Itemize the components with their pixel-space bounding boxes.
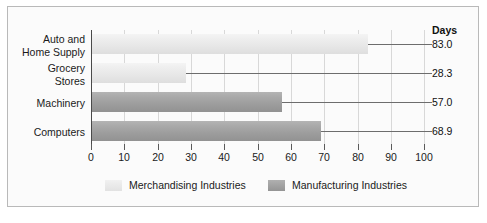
days-column-header: Days bbox=[432, 24, 457, 37]
chart-screenshot: Auto and Home Supply Grocery Stores Mach… bbox=[0, 0, 487, 223]
category-label-auto-and-home-supply: Auto and Home Supply bbox=[22, 33, 85, 58]
xtick-0 bbox=[91, 144, 92, 150]
value-label-grocery-stores: 28.3 bbox=[432, 67, 472, 80]
bar-grocery-stores bbox=[92, 63, 186, 83]
legend-label-merchandising: Merchandising Industries bbox=[129, 179, 246, 192]
legend-swatch-manufacturing-icon bbox=[268, 180, 285, 191]
xtick-70 bbox=[324, 144, 325, 150]
value-label-auto-and-home-supply: 83.0 bbox=[432, 38, 472, 51]
legend-swatch-merchandising-icon bbox=[105, 180, 122, 191]
xtick-label-100: 100 bbox=[404, 151, 444, 164]
category-label-computers: Computers bbox=[34, 126, 85, 139]
leader-line-machinery bbox=[282, 102, 432, 103]
chart-legend: Merchandising Industries Manufacturing I… bbox=[0, 179, 487, 197]
xtick-80 bbox=[358, 144, 359, 150]
xtick-90 bbox=[391, 144, 392, 150]
category-label-machinery: Machinery bbox=[37, 97, 85, 110]
category-label-grocery-stores: Grocery Stores bbox=[48, 62, 85, 87]
bar-computers bbox=[92, 121, 321, 141]
value-label-computers: 68.9 bbox=[432, 125, 472, 138]
bar-auto-and-home-supply bbox=[92, 34, 368, 54]
xtick-100 bbox=[424, 144, 425, 150]
leader-line-computers bbox=[321, 131, 432, 132]
legend-item-merchandising: Merchandising Industries bbox=[105, 179, 246, 192]
plot-area: Auto and Home Supply Grocery Stores Mach… bbox=[0, 0, 487, 223]
legend-item-manufacturing: Manufacturing Industries bbox=[268, 179, 407, 192]
value-label-machinery: 57.0 bbox=[432, 96, 472, 109]
xtick-50 bbox=[258, 144, 259, 150]
bar-machinery bbox=[92, 92, 282, 112]
xtick-40 bbox=[224, 144, 225, 150]
xtick-30 bbox=[191, 144, 192, 150]
legend-label-manufacturing: Manufacturing Industries bbox=[292, 179, 407, 192]
leader-line-auto-and-home-supply bbox=[368, 44, 432, 45]
leader-line-grocery-stores bbox=[186, 73, 432, 74]
xtick-60 bbox=[291, 144, 292, 150]
xtick-20 bbox=[158, 144, 159, 150]
xtick-10 bbox=[124, 144, 125, 150]
